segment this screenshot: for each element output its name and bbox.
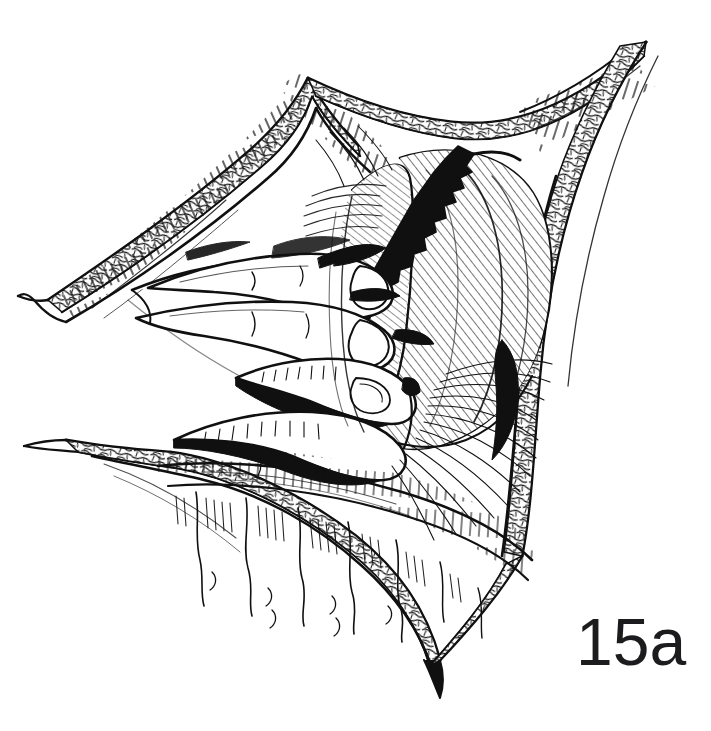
figure-number-label: 15a: [576, 609, 686, 675]
figure-page: CHIRURGIE OPERATIVE: [0, 0, 711, 731]
